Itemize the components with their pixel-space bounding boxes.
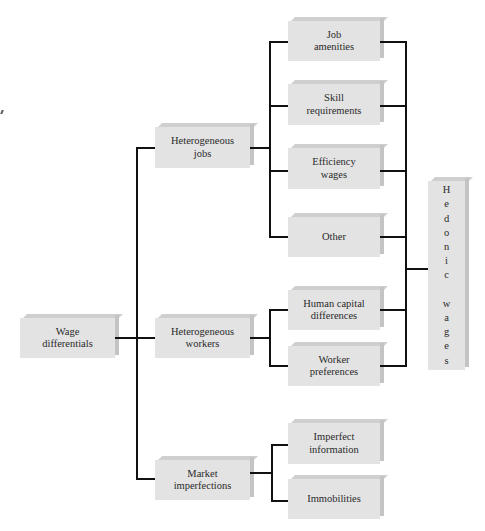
node-label: Wage differentials [42,326,93,351]
connector-human-capital-out [380,309,407,311]
connector-job-amenities-out [380,41,407,43]
node-label: Efficiency wages [312,156,356,181]
connector-to-market [136,478,155,480]
node-label: Human capital differences [303,298,365,323]
connector-root [115,337,155,339]
node-label: Imperfect information [309,431,359,456]
node-other: Other [288,217,380,257]
connector-to-other [269,236,288,238]
connector-to-worker-preferences [269,365,288,367]
connector-to-immobilities [271,500,288,502]
node-label: Heterogeneous jobs [171,135,234,160]
node-hedonic-wages: H e d o n i c w a g e s [428,181,465,370]
node-label: Job amenities [314,29,354,54]
stray-mark [0,110,3,114]
node-label: Other [322,231,346,244]
node-label: Heterogeneous workers [171,326,234,351]
connector-to-job-amenities [269,41,288,43]
connector-efficiency-wages-out [380,170,407,172]
connector-to-skill-requirements [269,105,288,107]
connector-market-trunk [271,444,273,502]
connector-other-out [380,236,407,238]
connector-to-human-capital [269,309,288,311]
node-worker-preferences: Worker preferences [288,346,380,386]
connector-to-efficiency-wages [269,170,288,172]
node-market-imperfections: Market imperfections [155,460,250,500]
connector-jobs-trunk [269,41,271,238]
connector-to-jobs [136,147,155,149]
node-label: Skill requirements [307,92,362,117]
connector-trunk-level1 [136,147,138,480]
node-label: Immobilities [307,493,361,506]
node-human-capital-differences: Human capital differences [288,290,380,330]
node-immobilities: Immobilities [288,479,380,519]
node-label: H e d o n i c w a g e s [443,183,451,368]
node-heterogeneous-jobs: Heterogeneous jobs [155,127,250,168]
node-imperfect-information: Imperfect information [288,423,380,464]
connector-hedonic-trunk [405,41,407,367]
connector-workers-trunk [269,309,271,367]
node-job-amenities: Job amenities [288,21,380,61]
connector-to-imperfect-information [271,444,288,446]
connector-worker-preferences-out [380,365,407,367]
node-skill-requirements: Skill requirements [288,84,380,125]
connector-jobs-out [250,147,271,149]
node-efficiency-wages: Efficiency wages [288,148,380,189]
connector-workers-out [250,337,271,339]
connector-to-hedonic-wages [405,268,428,270]
connector-market-out [250,472,273,474]
node-label: Market imperfections [174,468,232,493]
wage-differentials-diagram: Wage differentials Heterogeneous jobs He… [0,0,485,531]
node-label: Worker preferences [310,354,358,379]
node-heterogeneous-workers: Heterogeneous workers [155,318,250,358]
node-wage-differentials: Wage differentials [20,318,115,358]
connector-skill-requirements-out [380,105,407,107]
